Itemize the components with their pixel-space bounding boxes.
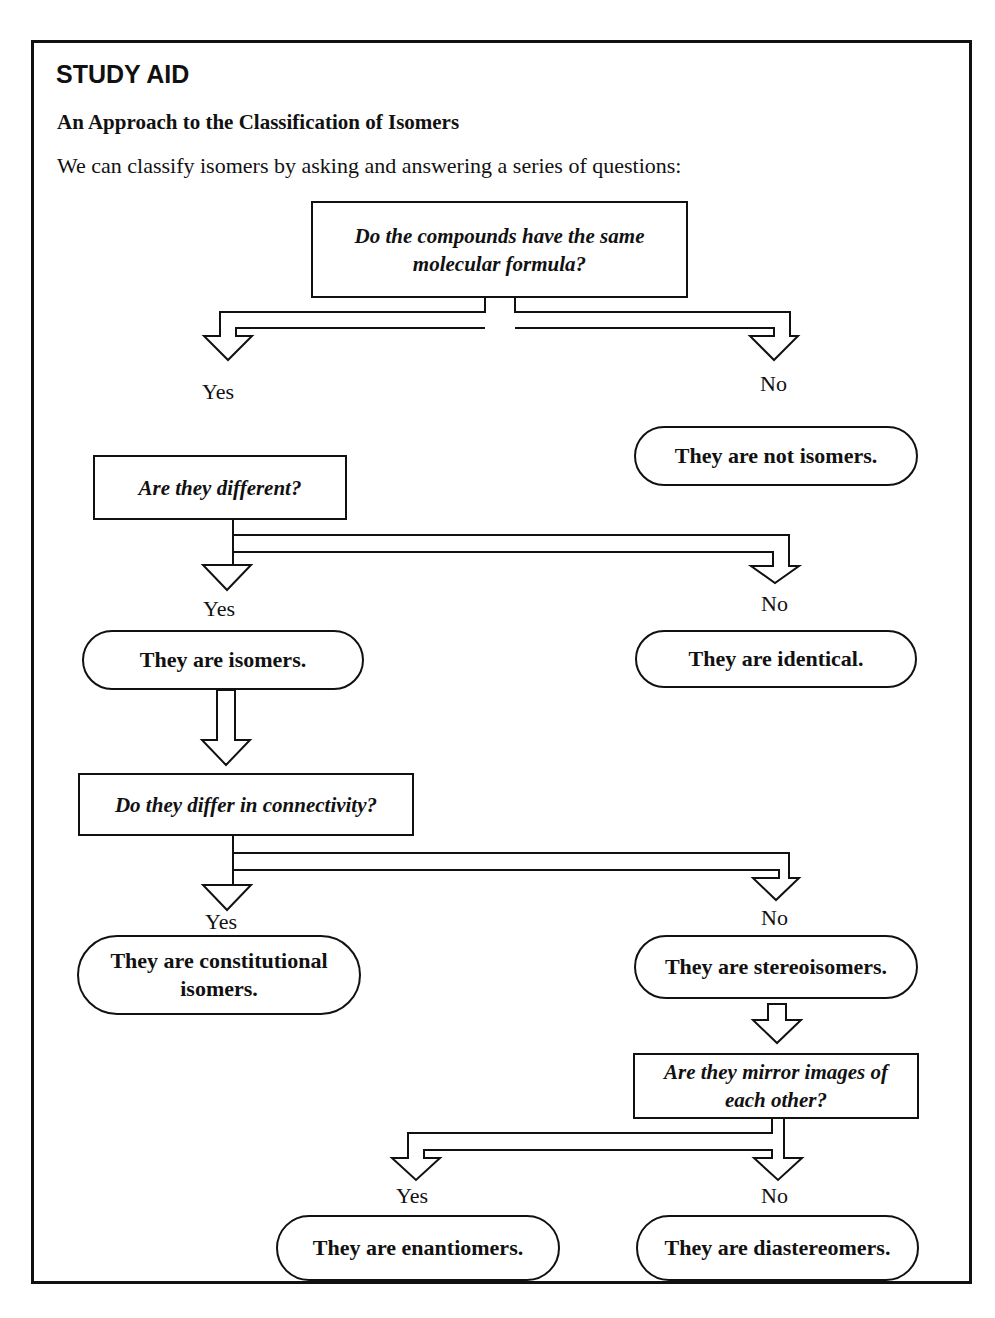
q1-no-label: No xyxy=(760,371,787,397)
outcome-text: They are diastereomers. xyxy=(665,1234,891,1262)
outcome-not-isomers: They are not isomers. xyxy=(634,426,918,486)
q2-yes-label: Yes xyxy=(203,596,235,622)
arrow-q2-yes-icon xyxy=(203,520,799,590)
q2-no-label: No xyxy=(761,591,788,617)
arrow-q1-yes-icon xyxy=(204,297,485,360)
arrow-isomers-down-icon xyxy=(202,690,250,765)
outcome-text: They are identical. xyxy=(689,645,864,673)
question-same-formula: Do the compounds have the same molecular… xyxy=(311,201,688,298)
outcome-isomers: They are isomers. xyxy=(82,630,364,690)
outcome-text: They are isomers. xyxy=(140,646,306,674)
arrow-q3-yes-icon xyxy=(203,836,799,910)
question-mirror-images: Are they mirror images of each other? xyxy=(633,1053,919,1119)
question-connectivity: Do they differ in connectivity? xyxy=(78,773,414,836)
q3-no-label: No xyxy=(761,905,788,931)
outcome-text: They are constitutional isomers. xyxy=(99,947,339,1003)
outcome-diastereomers: They are diastereomers. xyxy=(636,1215,919,1281)
outcome-text: They are not isomers. xyxy=(675,442,877,470)
arrow-q1-no-icon xyxy=(515,297,798,360)
q1-yes-label: Yes xyxy=(202,379,234,405)
arrow-q4-split-icon xyxy=(392,1118,802,1180)
outcome-constitutional-isomers: They are constitutional isomers. xyxy=(77,935,361,1015)
outcome-text: They are stereoisomers. xyxy=(665,953,887,981)
outcome-identical: They are identical. xyxy=(635,630,917,688)
outcome-stereoisomers: They are stereoisomers. xyxy=(634,935,918,999)
q4-yes-label: Yes xyxy=(396,1183,428,1209)
q3-yes-label: Yes xyxy=(205,909,237,935)
q4-no-label: No xyxy=(761,1183,788,1209)
question-text: Do they differ in connectivity? xyxy=(115,791,377,819)
outcome-text: They are enantiomers. xyxy=(313,1234,523,1262)
outcome-enantiomers: They are enantiomers. xyxy=(276,1215,560,1281)
arrow-stereo-down-icon xyxy=(753,1004,801,1043)
question-text: Do the compounds have the same molecular… xyxy=(313,222,686,278)
question-different: Are they different? xyxy=(93,455,347,520)
question-text: Are they different? xyxy=(139,474,302,502)
question-text: Are they mirror images of each other? xyxy=(645,1058,907,1114)
